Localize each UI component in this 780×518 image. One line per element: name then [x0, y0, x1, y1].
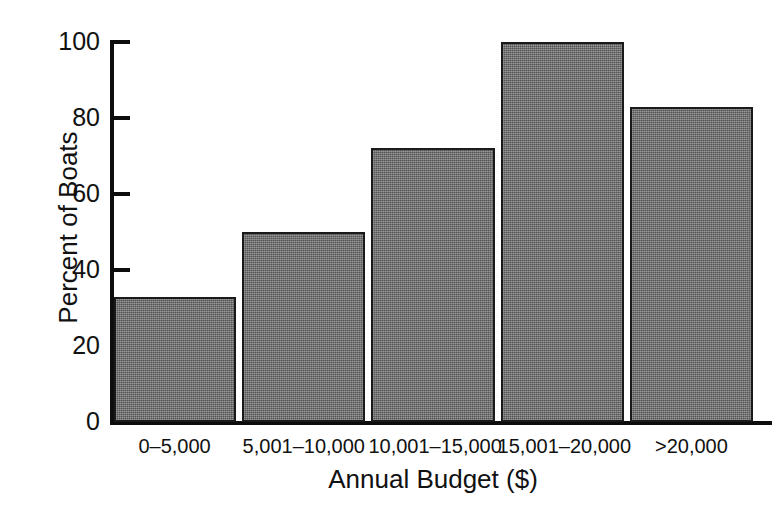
- bar: [242, 232, 365, 422]
- y-tick-label-80: 80: [42, 105, 100, 130]
- y-axis-tick-labels: 100 80 60 40 20 0: [38, 0, 100, 518]
- y-tick-label-0: 0: [42, 409, 100, 434]
- x-tick-label-4: >20,000: [627, 434, 756, 458]
- y-tick-label-100: 100: [42, 29, 100, 54]
- bar: [114, 297, 236, 422]
- x-tick-label-2: 10,001–15,000: [368, 434, 497, 458]
- bar: [371, 148, 494, 422]
- x-axis-title: Annual Budget ($): [110, 464, 756, 495]
- bar-chart-figure: Percent of Boats 100 80 60 40 20 0 0–5,0…: [0, 0, 780, 518]
- bar: [630, 107, 753, 422]
- bar-series: [110, 42, 756, 422]
- x-tick-label-3: 15,001–20,000: [498, 434, 627, 458]
- y-tick-label-60: 60: [42, 181, 100, 206]
- bar: [501, 42, 624, 422]
- x-axis-tick-labels: 0–5,000 5,001–10,000 10,001–15,000 15,00…: [110, 434, 756, 464]
- y-tick-label-40: 40: [42, 257, 100, 282]
- y-tick-label-20: 20: [42, 333, 100, 358]
- x-tick-label-1: 5,001–10,000: [239, 434, 368, 458]
- x-tick-label-0: 0–5,000: [110, 434, 239, 458]
